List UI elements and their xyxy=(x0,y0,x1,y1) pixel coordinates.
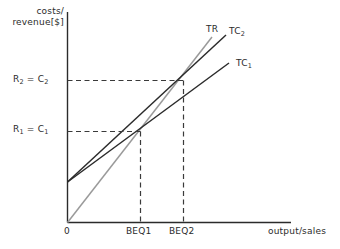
r2-equals: = C xyxy=(24,74,44,84)
r1-subscript: 1 xyxy=(19,128,23,136)
y-tick-label-r2: R2 = C2 xyxy=(13,74,49,85)
y-axis-title-line1: costs/ xyxy=(36,6,64,16)
r2-equals-subscript: 2 xyxy=(44,78,48,86)
y-tick-label-r1: R1 = C1 xyxy=(13,124,49,135)
total-revenue-line xyxy=(68,37,213,223)
tc1-subscript: 1 xyxy=(248,62,252,70)
series-label-tc2: TC2 xyxy=(229,26,245,37)
breakeven-chart: costs/revenue[$] output/sales R2 = C2 R1… xyxy=(0,0,340,249)
tc2-subscript: 2 xyxy=(241,30,245,38)
series-label-tc1: TC1 xyxy=(236,58,252,69)
r1-equals-subscript: 1 xyxy=(44,128,48,136)
chart-canvas xyxy=(0,0,340,249)
x-axis-title: output/sales xyxy=(268,226,326,237)
y-axis-title-line2: revenue[$] xyxy=(12,17,64,27)
tc1-base: TC xyxy=(236,58,248,68)
r2-subscript: 2 xyxy=(19,78,23,86)
series-label-tr: TR xyxy=(206,24,218,35)
x-tick-label-origin: 0 xyxy=(64,226,70,237)
x-tick-label-beq2: BEQ2 xyxy=(169,226,194,237)
total-cost-2-line xyxy=(68,35,227,182)
r1-equals: = C xyxy=(24,124,44,134)
tc2-base: TC xyxy=(229,26,241,36)
x-tick-label-beq1: BEQ1 xyxy=(126,226,151,237)
y-axis-title: costs/revenue[$] xyxy=(6,6,64,28)
